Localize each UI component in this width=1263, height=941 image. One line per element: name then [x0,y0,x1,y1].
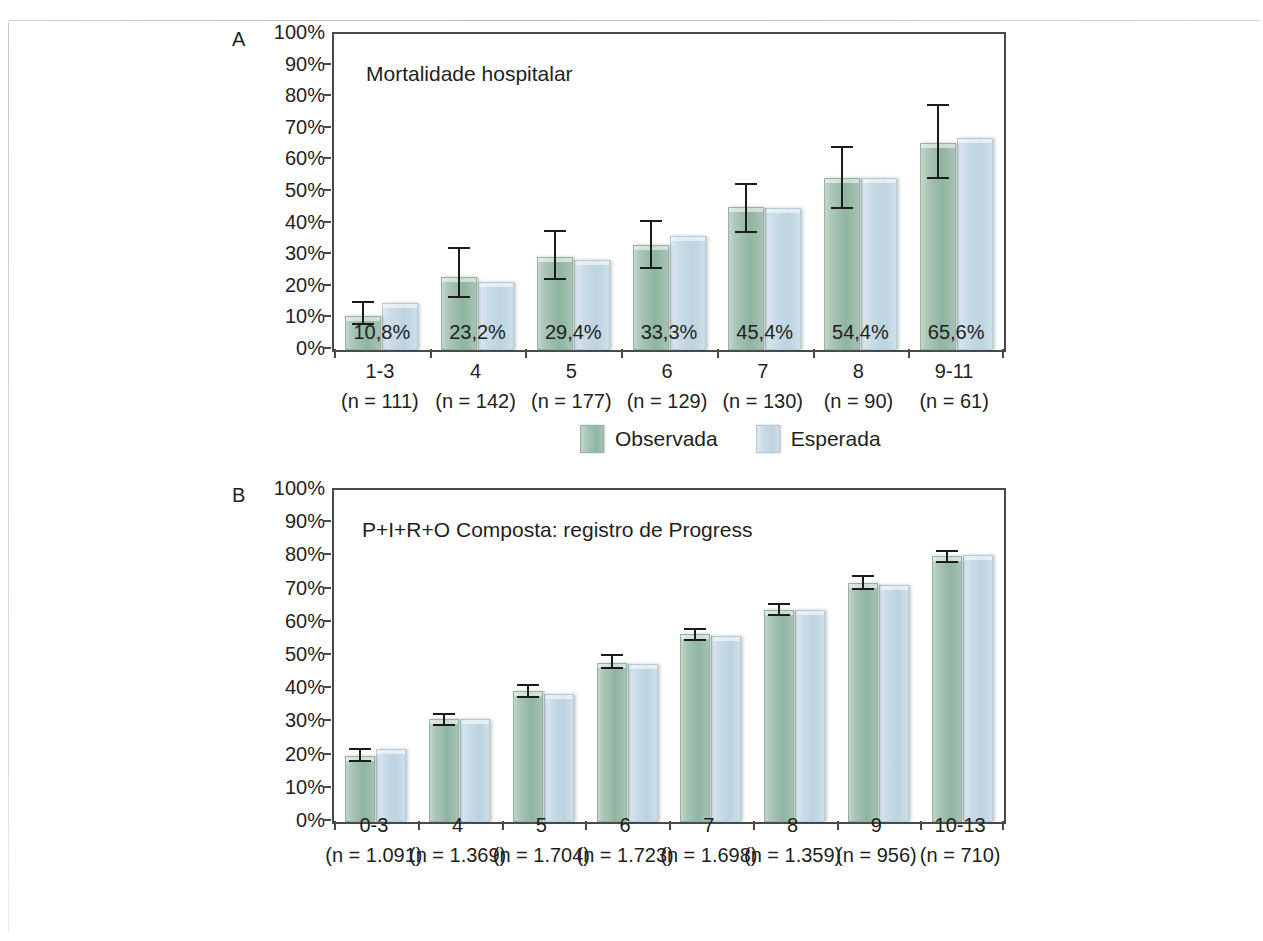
x-axis-count-label: (n = 1.369) [409,844,506,867]
bar-expected [957,138,993,350]
y-axis-tick-label: 30% [285,709,325,732]
bar-expected [711,636,741,822]
x-axis-count-label: (n = 130) [722,390,803,413]
bar-data-label: 54,4% [813,321,909,344]
x-axis-category-label: 1-3 [365,360,394,383]
x-axis-tick-mark [430,349,432,358]
x-axis-tick-mark [621,349,623,358]
y-axis-tick-label: 80% [285,543,325,566]
error-bar [597,654,627,669]
x-axis-count-label: (n = 177) [531,390,612,413]
bar-data-label: 29,4% [525,321,621,344]
x-axis-category-label: 10-13 [935,814,986,837]
x-axis-tick-mark [669,821,671,830]
y-axis-tick-label: 80% [285,84,325,107]
y-axis-tick-label: 60% [285,609,325,632]
error-bar [537,230,573,281]
bar-expected [879,585,909,822]
x-axis-tick-mark [334,349,336,358]
y-axis-tick-label: 100% [274,21,325,44]
legend-item-esperada: Esperada [756,425,881,453]
bar-expected [376,749,406,822]
x-axis-category-label: 7 [757,360,768,383]
error-bar [513,684,543,698]
y-axis-tick-label: 40% [285,676,325,699]
bar-observed [932,556,962,822]
panel-b-y-axis: 0%10%20%30%40%50%60%70%80%90%100% [265,481,325,826]
y-axis-tick-label: 10% [285,775,325,798]
x-axis-count-label: (n = 1.704) [493,844,590,867]
x-axis-category-label: 8 [787,814,798,837]
x-axis-tick-mark [585,821,587,830]
y-axis-tick-mark [323,284,331,286]
bar-expected [963,555,993,822]
error-bar [920,104,956,180]
panel-a: A 0%10%20%30%40%50%60%70%80%90%100% 10,8… [0,0,1263,470]
panel-b: B 0%10%20%30%40%50%60%70%80%90%100% P+I+… [0,470,1263,941]
y-axis-tick-mark [323,347,331,349]
y-axis-tick-label: 0% [296,337,325,360]
y-axis-tick-mark [323,126,331,128]
legend-label-esperada: Esperada [791,427,881,451]
x-axis-category-label: 4 [470,360,481,383]
x-axis-tick-mark [502,821,504,830]
y-axis-tick-label: 90% [285,510,325,533]
bar-expected [795,610,825,822]
y-axis-tick-label: 100% [274,477,325,500]
x-axis-count-label: (n = 1.723) [576,844,673,867]
x-axis-category-label: 8 [853,360,864,383]
x-axis-category-label: 9-11 [935,360,974,383]
y-axis-tick-mark [323,653,331,655]
error-bar [932,550,962,563]
bar-data-label: 10,8% [334,321,430,344]
y-axis-tick-mark [323,786,331,788]
y-axis-tick-label: 90% [285,52,325,75]
error-bar [429,713,459,726]
y-axis-tick-label: 60% [285,147,325,170]
x-axis-category-label: 6 [620,814,631,837]
error-bar [764,603,794,616]
bar-expected [460,719,490,822]
y-axis-tick-mark [323,686,331,688]
x-axis-category-label: 0-3 [359,814,388,837]
x-axis-category-label: 4 [452,814,463,837]
x-axis-count-label: (n = 90) [824,390,893,413]
y-axis-tick-label: 50% [285,643,325,666]
legend-item-observada: Observada [580,425,718,453]
y-axis-tick-label: 10% [285,305,325,328]
legend-swatch-observada [580,425,604,453]
x-axis-count-label: (n = 61) [919,390,988,413]
bar-observed [680,634,710,822]
x-axis-category-label: 7 [703,814,714,837]
error-bar [345,748,375,762]
y-axis-tick-mark [323,221,331,223]
y-axis-tick-mark [323,315,331,317]
y-axis-tick-label: 70% [285,115,325,138]
y-axis-tick-mark [323,620,331,622]
y-axis-tick-label: 50% [285,179,325,202]
x-axis-count-label: (n = 710) [920,844,1001,867]
x-axis-tick-mark [837,821,839,830]
y-axis-tick-label: 0% [296,809,325,832]
x-axis-tick-mark [908,349,910,358]
bar-data-label: 65,6% [908,321,1004,344]
x-axis-count-label: (n = 1.698) [660,844,757,867]
y-axis-tick-mark [323,553,331,555]
error-bar [633,220,669,269]
x-axis-tick-mark [717,349,719,358]
x-axis-tick-mark [1002,349,1004,358]
x-axis-tick-mark [334,821,336,830]
y-axis-tick-mark [323,819,331,821]
y-axis-tick-mark [323,157,331,159]
y-axis-tick-label: 20% [285,742,325,765]
bar-expected [628,664,658,822]
x-axis-count-label: (n = 1.359) [744,844,841,867]
y-axis-tick-label: 20% [285,273,325,296]
y-axis-tick-mark [323,189,331,191]
x-axis-tick-mark [813,349,815,358]
y-axis-tick-mark [323,63,331,65]
bar-observed [848,583,878,822]
bar-data-label: 33,3% [621,321,717,344]
y-axis-tick-mark [323,587,331,589]
x-axis-tick-mark [920,821,922,830]
